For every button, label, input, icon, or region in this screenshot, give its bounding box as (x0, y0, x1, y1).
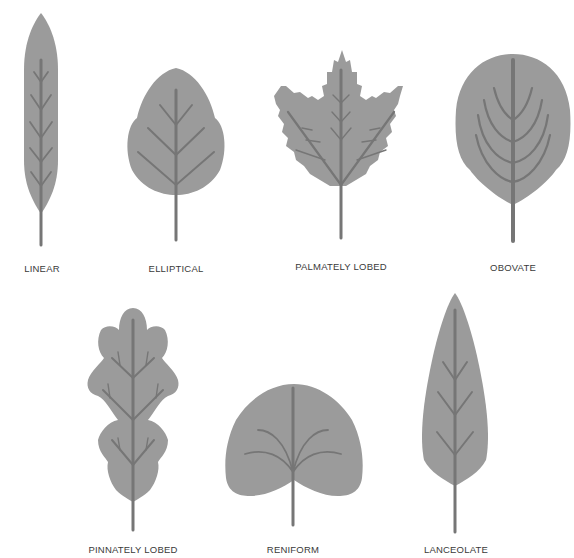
label-lanceolate: LANCEOLATE (424, 544, 488, 555)
leaf-shapes-diagram (0, 0, 574, 558)
label-obovate: OBOVATE (490, 262, 536, 273)
label-linear: LINEAR (24, 263, 60, 274)
label-elliptical: ELLIPTICAL (149, 263, 204, 274)
label-pinnately-lobed: PINNATELY LOBED (88, 544, 177, 555)
label-reniform: RENIFORM (267, 544, 319, 555)
label-palmately-lobed: PALMATELY LOBED (295, 261, 387, 272)
